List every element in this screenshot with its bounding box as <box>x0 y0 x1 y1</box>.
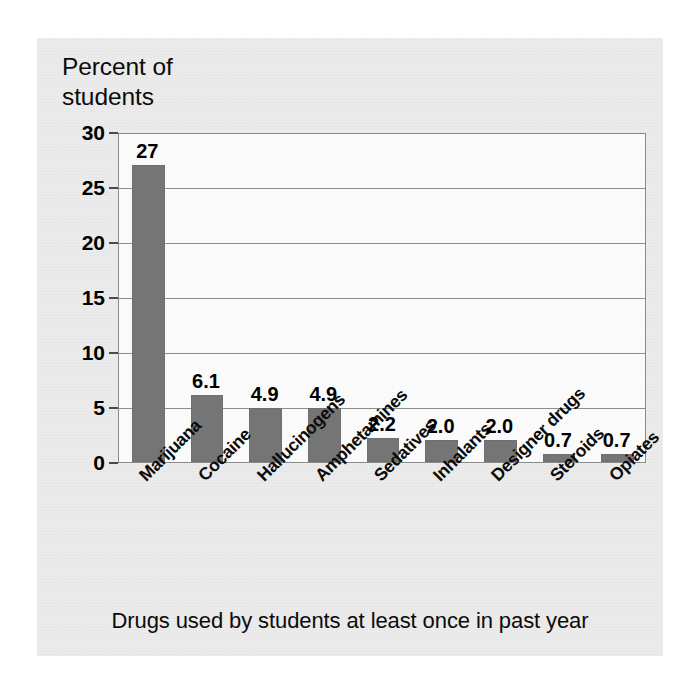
y-axis-tick <box>109 352 118 353</box>
y-axis-tick <box>109 462 118 463</box>
bar-value-label: 0.7 <box>544 429 572 452</box>
gridline <box>119 353 645 354</box>
chart-figure: Percent of students 05101520253027Mariju… <box>37 38 663 656</box>
y-axis-tick <box>109 242 118 243</box>
bar-value-label: 0.7 <box>603 429 631 452</box>
gridline <box>119 243 645 244</box>
y-axis-label: 10 <box>82 341 105 365</box>
bar-value-label: 4.9 <box>251 383 279 406</box>
bar-value-label: 2.0 <box>485 415 513 438</box>
y-axis-tick <box>109 132 118 133</box>
y-axis-label: 25 <box>82 176 105 200</box>
y-axis-label: 5 <box>93 396 105 420</box>
plot-wrapper: 05101520253027Marijuana6.1Cocaine4.9Hall… <box>118 133 646 463</box>
y-axis-label: 20 <box>82 231 105 255</box>
y-axis-label: 15 <box>82 286 105 310</box>
y-axis-label: 30 <box>82 121 105 145</box>
gridline <box>119 133 645 134</box>
y-axis-title: Percent of students <box>62 52 173 112</box>
bar-value-label: 2.0 <box>427 415 455 438</box>
gridline <box>119 298 645 299</box>
gridline <box>119 188 645 189</box>
y-axis-tick <box>109 407 118 408</box>
chart-caption: Drugs used by students at least once in … <box>37 608 663 634</box>
y-axis-label: 0 <box>93 451 105 475</box>
bar[interactable] <box>132 165 165 462</box>
y-axis-tick <box>109 297 118 298</box>
y-axis-tick <box>109 187 118 188</box>
bar-value-label: 27 <box>136 140 158 163</box>
bar-value-label: 6.1 <box>192 370 220 393</box>
bar-value-label: 4.9 <box>309 383 337 406</box>
bar-value-label: 2.2 <box>368 413 396 436</box>
